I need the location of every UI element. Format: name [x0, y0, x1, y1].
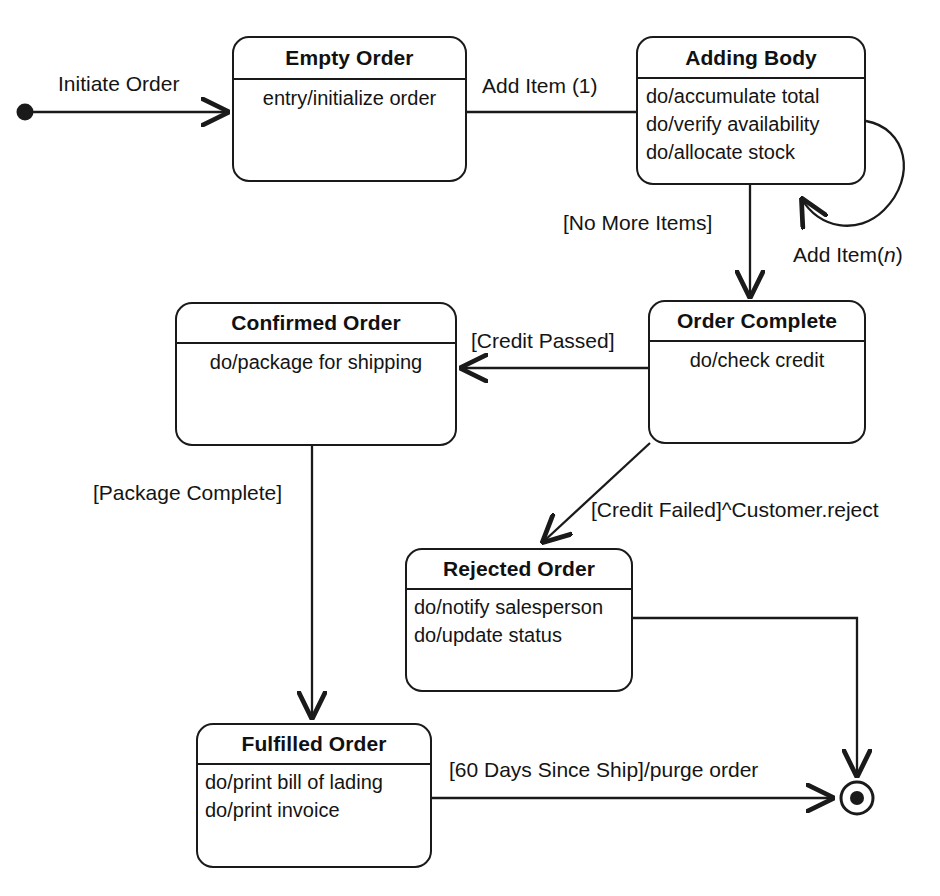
transition-credit-failed-line	[543, 443, 650, 542]
state-empty-order-activity: entry/initialize order	[234, 83, 465, 113]
state-rejected-order-title: Rejected Order	[407, 550, 631, 588]
state-fulfilled-order-activity-2: do/print invoice	[205, 796, 430, 824]
state-rejected-order-activity-2: do/update status	[414, 621, 631, 649]
state-order-complete[interactable]: Order Complete do/check credit	[648, 300, 866, 444]
final-state-dot	[850, 791, 864, 805]
state-order-complete-title: Order Complete	[650, 302, 864, 340]
state-rejected-order-body: do/notify salesperson do/update status	[407, 590, 631, 649]
transition-label-add-item-n-prefix: Add Item(	[793, 243, 884, 266]
transition-label-no-more-items: [No More Items]	[563, 211, 712, 235]
state-fulfilled-order-body: do/print bill of lading do/print invoice	[198, 765, 430, 824]
state-adding-body-activity-1: do/accumulate total	[646, 82, 864, 110]
initial-state-dot	[17, 104, 34, 121]
state-adding-body-activity-3: do/allocate stock	[646, 138, 864, 166]
state-adding-body-title: Adding Body	[638, 38, 864, 77]
state-fulfilled-order[interactable]: Fulfilled Order do/print bill of lading …	[196, 723, 432, 868]
state-order-complete-activity: do/check credit	[650, 345, 864, 375]
transition-label-add-item-n-suffix: )	[896, 243, 903, 266]
state-empty-order[interactable]: Empty Order entry/initialize order	[232, 36, 467, 182]
state-empty-order-body: entry/initialize order	[234, 80, 465, 113]
state-fulfilled-order-title: Fulfilled Order	[198, 725, 430, 763]
uml-state-diagram: Empty Order entry/initialize order Addin…	[0, 0, 940, 896]
state-adding-body[interactable]: Adding Body do/accumulate total do/verif…	[636, 36, 866, 185]
transition-label-add-item-n-italic: n	[884, 243, 896, 266]
transition-label-add-item-n: Add Item(n)	[793, 243, 903, 267]
transition-label-initiate-order: Initiate Order	[58, 72, 179, 96]
state-confirmed-order[interactable]: Confirmed Order do/package for shipping	[175, 302, 457, 446]
state-order-complete-body: do/check credit	[650, 342, 864, 375]
state-confirmed-order-body: do/package for shipping	[177, 344, 455, 377]
transition-label-add-item-1: Add Item (1)	[482, 74, 598, 98]
transition-label-purge-order: [60 Days Since Ship]/purge order	[449, 758, 758, 782]
state-empty-order-title: Empty Order	[234, 38, 465, 78]
state-adding-body-activity-2: do/verify availability	[646, 110, 864, 138]
state-fulfilled-order-activity-1: do/print bill of lading	[205, 768, 430, 796]
transition-label-credit-failed: [Credit Failed]^Customer.reject	[591, 498, 879, 522]
state-rejected-order[interactable]: Rejected Order do/notify salesperson do/…	[405, 548, 633, 692]
transition-label-package-complete: [Package Complete]	[93, 481, 282, 505]
transition-label-credit-passed: [Credit Passed]	[471, 329, 615, 353]
transition-rejected-to-final-line	[632, 618, 857, 776]
state-confirmed-order-title: Confirmed Order	[177, 304, 455, 342]
state-confirmed-order-activity: do/package for shipping	[177, 347, 455, 377]
state-rejected-order-activity-1: do/notify salesperson	[414, 593, 631, 621]
state-adding-body-body: do/accumulate total do/verify availabili…	[638, 79, 864, 166]
